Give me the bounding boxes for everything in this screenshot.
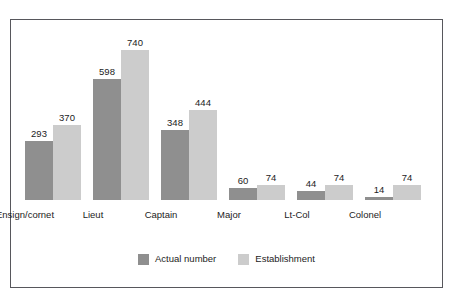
bar-value-label: 348 [167, 117, 183, 130]
legend-swatch-icon [138, 254, 149, 265]
bar-actual[interactable]: 44 [297, 191, 325, 200]
bar-pair: 60 74 [229, 50, 285, 200]
scan-bleed-through-text [0, 0, 455, 14]
bar-establishment[interactable]: 74 [393, 185, 421, 200]
category-label: Lieut [83, 209, 104, 221]
category-label: Lt-Col [284, 209, 309, 221]
bar-pair: 293 370 [25, 50, 81, 200]
bar-value-label: 14 [374, 184, 385, 197]
legend-label: Establishment [255, 253, 315, 265]
legend-item-actual-number[interactable]: Actual number [138, 253, 216, 265]
bar-actual[interactable]: 14 [365, 197, 393, 200]
legend-label: Actual number [155, 253, 216, 265]
bar-value-label: 293 [31, 128, 47, 141]
bar-value-label: 74 [334, 172, 345, 185]
category-label: Ensign/cornet [0, 209, 54, 221]
bar-value-label: 74 [402, 172, 413, 185]
plot-area: 293 370 Ensign/cornet 598 740 Lieut [11, 20, 442, 287]
category-label: Major [217, 209, 241, 221]
baseline-rule [25, 200, 429, 201]
bar-establishment[interactable]: 370 [53, 125, 81, 200]
bar-value-label: 60 [238, 175, 249, 188]
bar-value-label: 44 [306, 178, 317, 191]
bar-value-label: 444 [195, 97, 211, 110]
bar-actual[interactable]: 598 [93, 79, 121, 200]
bar-establishment[interactable]: 740 [121, 50, 149, 200]
category-label: Captain [145, 209, 178, 221]
category-label: Colonel [349, 209, 381, 221]
bar-pair: 598 740 [93, 50, 149, 200]
chart-legend: Actual number Establishment [11, 253, 442, 265]
bar-value-label: 598 [99, 66, 115, 79]
bar-establishment[interactable]: 74 [325, 185, 353, 200]
legend-item-establishment[interactable]: Establishment [238, 253, 315, 265]
legend-swatch-icon [238, 254, 249, 265]
bar-actual[interactable]: 293 [25, 141, 53, 200]
bar-establishment[interactable]: 74 [257, 185, 285, 200]
bar-actual[interactable]: 348 [161, 130, 189, 201]
bar-pair: 348 444 [161, 50, 217, 200]
bar-pair: 14 74 [365, 50, 421, 200]
bar-actual[interactable]: 60 [229, 188, 257, 200]
bar-value-label: 74 [266, 172, 277, 185]
bar-value-label: 740 [127, 37, 143, 50]
chart-frame: 293 370 Ensign/cornet 598 740 Lieut [10, 19, 443, 288]
bar-establishment[interactable]: 444 [189, 110, 217, 200]
bar-pair: 44 74 [297, 50, 353, 200]
bar-value-label: 370 [59, 112, 75, 125]
